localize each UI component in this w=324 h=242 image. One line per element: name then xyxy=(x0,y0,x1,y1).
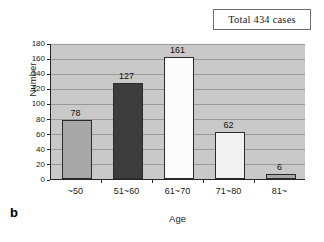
panel-letter: b xyxy=(10,206,18,220)
y-axis-tick-label: 20 xyxy=(18,161,45,169)
y-axis-tick-label: 100 xyxy=(18,100,45,108)
bar-value-label: 127 xyxy=(102,72,152,81)
bar xyxy=(164,57,194,179)
y-axis-tick-label: 60 xyxy=(18,131,45,139)
bar xyxy=(62,120,92,179)
y-axis-tick-label: 160 xyxy=(18,55,45,63)
y-axis-tick-mark xyxy=(47,44,50,45)
y-axis-tick-label: 0 xyxy=(18,176,45,184)
x-axis-tick-mark xyxy=(101,180,102,183)
y-axis-tick-mark xyxy=(47,149,50,150)
bar-value-label: 6 xyxy=(255,163,305,172)
x-axis-title: Age xyxy=(50,213,305,224)
y-axis-tick-label: 120 xyxy=(18,85,45,93)
y-axis-tick-label: 140 xyxy=(18,70,45,78)
x-axis-tick-label: 81~ xyxy=(250,186,310,196)
total-cases-label: Total 434 cases xyxy=(228,14,296,25)
y-axis-tick-mark xyxy=(47,164,50,165)
y-axis-tick-mark xyxy=(47,59,50,60)
x-axis-tick-mark xyxy=(254,180,255,183)
bar xyxy=(215,132,245,179)
y-axis-tick-mark xyxy=(47,134,50,135)
x-axis-tick-mark xyxy=(152,180,153,183)
bar-value-label: 62 xyxy=(204,121,254,130)
y-axis-tick-mark xyxy=(47,89,50,90)
bar xyxy=(113,83,143,179)
bar-value-label: 161 xyxy=(153,46,203,55)
y-axis-tick-label: 80 xyxy=(18,116,45,124)
gridline xyxy=(51,44,305,45)
bar-value-label: 78 xyxy=(51,109,101,118)
total-cases-box: Total 434 cases xyxy=(213,9,311,30)
figure-panel-b: Total 434 cases Number Age b 02040608010… xyxy=(0,0,324,242)
y-axis-tick-label: 40 xyxy=(18,146,45,154)
y-axis-tick-label: 180 xyxy=(18,40,45,48)
y-axis-title: Number xyxy=(27,35,38,125)
y-axis-tick-mark xyxy=(47,74,50,75)
y-axis-tick-mark xyxy=(47,119,50,120)
bar xyxy=(266,174,296,179)
x-axis-tick-mark xyxy=(203,180,204,183)
y-axis-tick-mark xyxy=(47,180,50,181)
y-axis-tick-mark xyxy=(47,104,50,105)
